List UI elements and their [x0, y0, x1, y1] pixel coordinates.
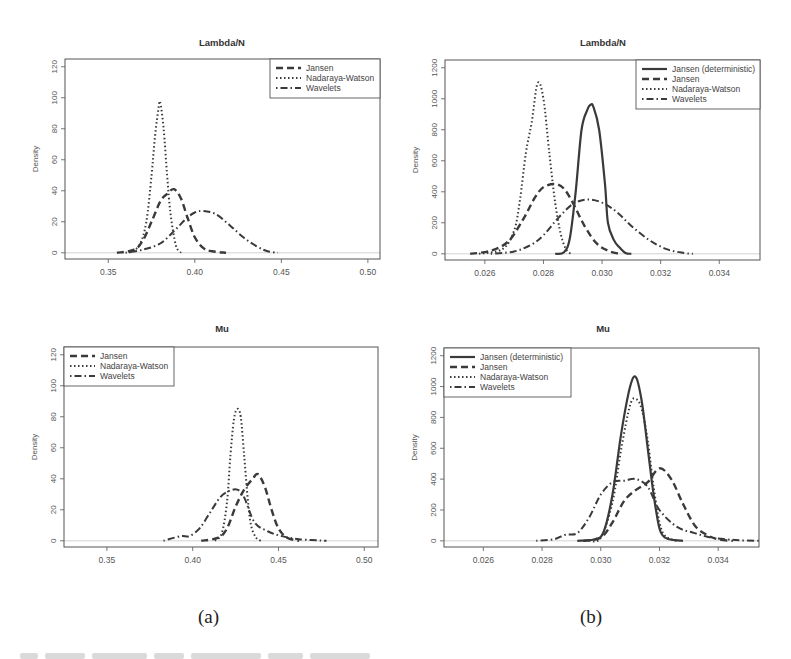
y-axis-label: Density [31, 146, 40, 173]
x-tick-label: 0.028 [533, 268, 555, 278]
series-jansen [117, 189, 226, 253]
legend-label: Wavelets [306, 83, 341, 93]
y-tick-label: 0 [49, 538, 58, 543]
chart-a-top: Lambda/N020406080100120Density0.350.400.… [31, 37, 380, 277]
series-wavelets [536, 479, 759, 541]
x-tick-label: 0.034 [708, 555, 730, 565]
x-tick-label: 0.026 [473, 555, 495, 565]
legend-label: Jansen (deterministic) [480, 352, 563, 362]
y-tick-label: 0 [50, 250, 59, 255]
y-axis-label: Density [30, 434, 39, 461]
legend-label: Jansen [672, 74, 700, 84]
legend: Jansen (deterministic)JansenNadaraya-Wat… [636, 60, 760, 109]
y-tick-label: 800 [430, 123, 439, 137]
chart-b-top: Lambda/N020040060080010001200Density0.02… [411, 37, 760, 278]
y-axis-label: Density [411, 147, 420, 174]
y-tick-label: 400 [429, 472, 438, 486]
y-tick-label: 60 [50, 155, 59, 164]
y-tick-label: 120 [50, 60, 59, 74]
series-jansen [470, 184, 619, 254]
y-tick-label: 20 [50, 217, 59, 226]
y-tick-label: 1200 [429, 346, 438, 364]
chart-b-bottom: Mu020040060080010001200Density0.0260.028… [410, 323, 759, 565]
caption-b: (b) [580, 606, 602, 628]
legend-label: Nadaraya-Watson [480, 372, 548, 382]
y-tick-label: 0 [430, 251, 439, 256]
x-tick-label: 0.35 [99, 555, 116, 565]
legend: JansenNadaraya-WatsonWavelets [64, 347, 174, 386]
y-tick-label: 40 [49, 474, 58, 483]
legend-label: Wavelets [480, 382, 515, 392]
legend-label: Nadaraya-Watson [100, 361, 168, 371]
x-tick-label: 0.45 [273, 267, 290, 277]
chart-title: Mu [596, 323, 610, 334]
y-tick-label: 100 [50, 91, 59, 105]
x-tick-label: 0.034 [709, 268, 731, 278]
y-tick-label: 600 [429, 441, 438, 455]
legend-label: Jansen [306, 63, 334, 73]
y-tick-label: 1000 [429, 377, 438, 395]
y-tick-label: 80 [49, 412, 58, 421]
x-tick-label: 0.45 [270, 555, 287, 565]
legend: Jansen (deterministic)JansenNadaraya-Wat… [444, 348, 571, 397]
legend-label: Jansen [480, 362, 508, 372]
x-tick-label: 0.030 [590, 555, 612, 565]
x-tick-label: 0.50 [360, 267, 377, 277]
y-tick-label: 600 [430, 154, 439, 168]
x-tick-label: 0.032 [650, 268, 672, 278]
y-tick-label: 1000 [430, 89, 439, 107]
y-axis-label: Density [410, 434, 419, 461]
legend-label: Jansen [100, 351, 128, 361]
series-jansen [201, 474, 299, 541]
cut-off-caption-line [20, 645, 490, 659]
legend-label: Nadaraya-Watson [672, 84, 740, 94]
legend-label: Jansen (deterministic) [672, 64, 755, 74]
chart-title: Lambda/N [580, 37, 626, 48]
x-tick-label: 0.026 [474, 268, 496, 278]
y-tick-label: 80 [50, 124, 59, 133]
x-tick-label: 0.032 [649, 555, 671, 565]
x-tick-label: 0.030 [591, 268, 613, 278]
series-wavelets [491, 200, 693, 254]
x-tick-label: 0.50 [356, 555, 373, 565]
x-tick-label: 0.028 [531, 555, 553, 565]
series-jansen-deterministic [555, 104, 631, 254]
y-tick-label: 40 [50, 186, 59, 195]
y-tick-label: 100 [49, 379, 58, 393]
y-tick-label: 0 [429, 538, 438, 543]
legend-label: Wavelets [672, 94, 707, 104]
x-tick-label: 0.40 [184, 555, 201, 565]
series-jansen [583, 468, 733, 541]
series-jansen-deterministic [577, 376, 683, 540]
series-nadaraya-watson [479, 82, 573, 254]
y-tick-label: 200 [429, 503, 438, 517]
y-tick-label: 20 [49, 505, 58, 514]
chart-title: Mu [215, 323, 229, 334]
y-tick-label: 800 [429, 410, 438, 424]
y-tick-label: 1200 [430, 58, 439, 76]
x-tick-label: 0.35 [100, 267, 117, 277]
x-tick-label: 0.40 [187, 267, 204, 277]
series-nadaraya-watson [129, 101, 181, 253]
chart-title: Lambda/N [199, 37, 245, 48]
y-tick-label: 120 [49, 348, 58, 362]
y-tick-label: 200 [430, 216, 439, 230]
legend-label: Nadaraya-Watson [306, 73, 374, 83]
legend: JansenNadaraya-WatsonWavelets [270, 59, 380, 98]
series-wavelets [164, 489, 327, 541]
y-tick-label: 400 [430, 185, 439, 199]
caption-a: (a) [198, 606, 219, 628]
legend-label: Wavelets [100, 371, 135, 381]
y-tick-label: 60 [49, 443, 58, 452]
chart-a-bottom: Mu020406080100120Density0.350.400.450.50… [30, 323, 378, 565]
